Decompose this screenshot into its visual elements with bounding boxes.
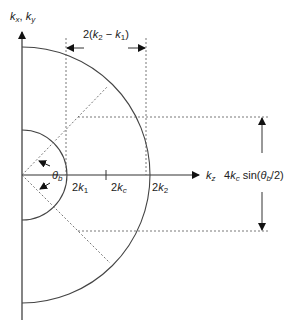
angle-arrow-upper xyxy=(39,161,50,166)
angle-arrow-lower xyxy=(40,183,50,189)
tick-label-2k1: 2k1 xyxy=(72,181,89,195)
lower-diagonal xyxy=(22,175,110,263)
tick-label-2k2: 2k2 xyxy=(152,181,169,195)
ewald-sphere-diagram: kx, ky kz 2k1 2kc 2k2 θb 2(k2 − k1) 4kc … xyxy=(0,0,290,335)
horizontal-axis-label: kz xyxy=(206,169,216,183)
angle-label: θb xyxy=(52,169,63,183)
height-label: 4kc sin(θb/2) xyxy=(224,169,284,183)
width-label: 2(k2 − k1) xyxy=(83,28,129,42)
vertical-axis-label: kx, ky xyxy=(10,10,36,24)
tick-label-2kc: 2kc xyxy=(111,181,127,195)
